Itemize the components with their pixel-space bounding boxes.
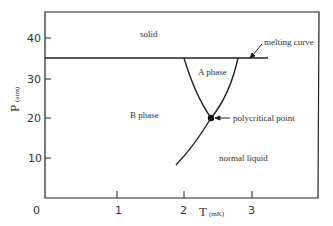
label-normal-liquid: normal liquid <box>219 153 268 163</box>
y-axis-title-group: P (atm) <box>7 86 22 112</box>
x-ticks <box>117 191 252 198</box>
y-axis-unit: (atm) <box>13 86 21 102</box>
label-b-phase: B phase <box>130 110 159 120</box>
y-tick-label: 30 <box>27 73 41 86</box>
x-tick-label: 1 <box>115 204 122 217</box>
y-axis-title: P <box>7 105 22 112</box>
x-axis-title: T <box>199 204 207 219</box>
y-tick-label: 10 <box>28 152 42 165</box>
b-normal-boundary <box>176 118 211 165</box>
phase-diagram: 40 30 20 10 0 1 2 3 T (mK) P (atm) solid… <box>0 0 333 226</box>
y-ticks <box>45 38 51 158</box>
y-tick-label: 40 <box>27 32 41 45</box>
label-solid: solid <box>140 29 158 39</box>
x-tick-label: 3 <box>248 204 255 217</box>
x-tick-label: 2 <box>180 204 187 217</box>
label-a-phase: A phase <box>198 67 227 77</box>
label-melting-curve: melting curve <box>264 37 314 47</box>
polycritical-point-marker <box>208 115 214 121</box>
melting-curve-arrow <box>250 44 262 58</box>
y-tick-label: 20 <box>27 112 41 125</box>
x-axis-unit: (mK) <box>209 210 225 218</box>
label-polycritical-point: polycritical point <box>233 113 295 123</box>
polycritical-arrow <box>215 116 230 120</box>
x-tick-label: 0 <box>33 204 40 217</box>
